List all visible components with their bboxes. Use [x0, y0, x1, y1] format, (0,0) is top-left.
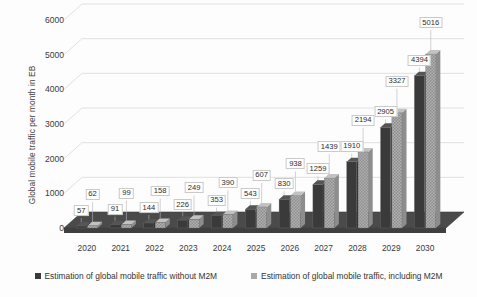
data-label: 226 — [173, 199, 192, 210]
y-axis-tick: 6000 — [24, 15, 64, 25]
bar-2026-series2 — [290, 191, 305, 228]
data-label: 1439 — [318, 141, 341, 152]
data-label: 2194 — [352, 115, 375, 126]
legend-item[interactable]: Estimation of global mobile traffic, inc… — [251, 271, 442, 281]
bar-2030-series2 — [426, 50, 441, 228]
x-axis-tick: 2022 — [145, 243, 164, 253]
bar-2025-series2 — [257, 203, 272, 228]
chart-legend: Estimation of global mobile traffic with… — [0, 266, 477, 286]
square-marker-light — [251, 273, 257, 279]
data-label: 144 — [140, 202, 159, 213]
chart-container: Global mobile traffic per month in EB 01… — [0, 0, 477, 297]
data-label: 4394 — [408, 55, 431, 66]
data-label: 62 — [85, 189, 99, 200]
data-label: 390 — [219, 178, 238, 189]
bar-2027-series2 — [324, 174, 339, 228]
data-label: 607 — [252, 170, 271, 181]
x-axis-tick: 2030 — [416, 243, 435, 253]
legend-item[interactable]: Estimation of global mobile traffic with… — [35, 271, 218, 281]
plot-area: 5762919914415822624935339054360783093812… — [64, 14, 464, 242]
bars-group — [64, 14, 464, 242]
data-label: 1259 — [307, 163, 330, 174]
x-axis-tick: 2026 — [280, 243, 299, 253]
data-label: 3327 — [385, 76, 408, 87]
x-axis-tick: 2024 — [213, 243, 232, 253]
x-axis-tick-labels: 2020202120222023202420252026202720282029… — [64, 243, 464, 259]
y-axis-tick: 3000 — [24, 119, 64, 129]
data-label: 249 — [185, 182, 204, 193]
x-axis-tick: 2029 — [382, 243, 401, 253]
x-axis-tick: 2020 — [78, 243, 97, 253]
data-label: 938 — [286, 159, 305, 170]
y-axis-tick: 1000 — [24, 188, 64, 198]
bar-2024-series2 — [223, 210, 238, 228]
data-label: 543 — [241, 188, 260, 199]
bar-2028-series2 — [358, 148, 373, 228]
data-label: 830 — [275, 178, 294, 189]
x-axis-tick: 2027 — [314, 243, 333, 253]
x-axis-tick: 2023 — [179, 243, 198, 253]
data-label: 57 — [74, 205, 88, 216]
x-axis-tick: 2021 — [111, 243, 130, 253]
data-label: 5016 — [419, 17, 442, 28]
legend-label: Estimation of global mobile traffic, inc… — [261, 271, 442, 281]
square-marker-dark — [35, 273, 41, 279]
legend-label: Estimation of global mobile traffic with… — [45, 271, 218, 281]
y-axis-tick-labels: 0100020003000400050006000 — [20, 0, 64, 297]
data-label: 353 — [207, 195, 226, 206]
y-axis-tick: 2000 — [24, 154, 64, 164]
data-label: 99 — [119, 188, 133, 199]
data-label: 2905 — [374, 106, 397, 117]
data-label: 1910 — [340, 141, 363, 152]
bar-2029-series2 — [392, 109, 407, 228]
x-axis-tick: 2028 — [348, 243, 367, 253]
data-label: 91 — [108, 204, 122, 215]
y-axis-tick: 4000 — [24, 84, 64, 94]
y-axis-tick: 5000 — [24, 50, 64, 60]
x-axis-tick: 2025 — [247, 243, 266, 253]
data-label: 158 — [151, 186, 170, 197]
y-axis-tick: 0 — [24, 223, 64, 233]
